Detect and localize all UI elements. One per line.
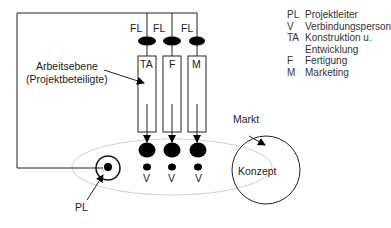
fl-node-1 xyxy=(138,37,156,46)
v-label-3: V xyxy=(195,173,202,184)
column-label-m: M xyxy=(192,59,201,70)
legend-text: Fertigung xyxy=(305,55,347,67)
work-level-label: Arbeitsebene xyxy=(36,61,98,72)
legend-abbr: V xyxy=(287,21,305,33)
legend-row-v: V Verbindungsperson xyxy=(287,21,391,33)
member-node-1 xyxy=(139,143,156,158)
legend-row-ta-cont: Entwicklung xyxy=(287,44,391,56)
legend-abbr: M xyxy=(287,67,305,79)
legend-text: Entwicklung xyxy=(305,44,358,56)
market-label: Markt xyxy=(233,114,259,125)
legend-abbr: PL xyxy=(287,9,305,21)
v-node-3 xyxy=(194,164,202,171)
member-node-3 xyxy=(190,143,207,158)
fl-node-2 xyxy=(163,37,181,46)
v-node-1 xyxy=(143,164,151,171)
v-label-2: V xyxy=(168,173,175,184)
legend-row-ta: TA Konstruktion u. xyxy=(287,32,391,44)
v-label-1: V xyxy=(143,173,150,184)
fl-node-3 xyxy=(189,37,205,46)
legend-abbr xyxy=(287,44,305,56)
fl-label-1: FL xyxy=(130,23,142,34)
legend-text: Marketing xyxy=(305,67,349,79)
legend-abbr: F xyxy=(287,55,305,67)
fl-label-2: FL xyxy=(153,23,165,34)
work-level-sublabel: (Projektbeteiligte) xyxy=(26,74,108,85)
legend: PL Projektleiter V Verbindungsperson TA … xyxy=(287,9,391,79)
legend-row-f: F Fertigung xyxy=(287,55,391,67)
column-label-f: F xyxy=(169,59,175,70)
legend-text: Projektleiter xyxy=(305,9,358,21)
pl-label: PL xyxy=(75,202,88,213)
legend-row-pl: PL Projektleiter xyxy=(287,9,391,21)
pl-node xyxy=(104,163,112,171)
legend-abbr: TA xyxy=(287,32,305,44)
member-node-2 xyxy=(164,143,181,158)
legend-text: Konstruktion u. xyxy=(305,32,372,44)
concept-label: Konzept xyxy=(238,166,277,177)
legend-row-m: M Marketing xyxy=(287,67,391,79)
column-label-ta: TA xyxy=(140,59,153,70)
pl-pointer xyxy=(87,175,103,200)
fl-label-3: FL xyxy=(181,23,193,34)
v-node-2 xyxy=(168,164,176,171)
legend-text: Verbindungsperson xyxy=(305,21,391,33)
